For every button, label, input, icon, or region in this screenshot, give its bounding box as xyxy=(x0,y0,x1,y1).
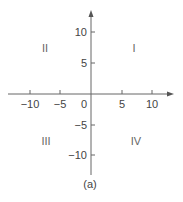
coordinate-plane: −10 −5 0 5 10 10 5 −5 −10 I II III IV (a… xyxy=(0,0,183,202)
quadrant-label-iv: IV xyxy=(131,135,142,147)
figure-caption: (a) xyxy=(83,178,96,190)
y-axis-arrow-icon xyxy=(89,10,94,17)
y-tick-label: 5 xyxy=(81,57,87,69)
x-axis-arrow-icon xyxy=(167,92,174,97)
x-tick-label: 5 xyxy=(119,98,125,110)
y-tick-label: 10 xyxy=(75,26,87,38)
x-tick-label: 10 xyxy=(146,98,158,110)
quadrant-label-iii: III xyxy=(41,135,50,147)
x-tick-label: −5 xyxy=(54,98,67,110)
y-tick-label: −10 xyxy=(68,149,87,161)
x-tick-label: 0 xyxy=(81,98,87,110)
quadrant-label-ii: II xyxy=(42,42,48,54)
x-tick-label: −10 xyxy=(21,98,40,110)
quadrant-label-i: I xyxy=(132,42,135,54)
y-tick-label: −5 xyxy=(74,119,87,131)
